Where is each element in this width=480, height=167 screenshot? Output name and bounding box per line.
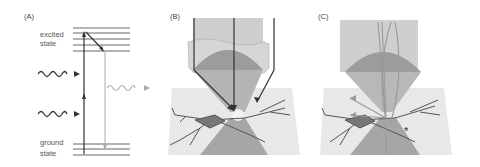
ground-state-label-2: state xyxy=(40,149,56,158)
panel-b-two-photon-focus: (B) xyxy=(168,12,300,155)
panel-a-label: (A) xyxy=(24,12,35,21)
arrowhead-icon xyxy=(144,85,150,91)
arrowhead-icon xyxy=(82,31,86,37)
figure: (A) excited state ground state xyxy=(0,0,480,167)
panel-c-label: (C) xyxy=(318,12,329,21)
ground-levels xyxy=(73,144,130,155)
photon-wave-in-2 xyxy=(38,112,67,117)
photon-wave-in-1 xyxy=(38,72,67,77)
arrowhead-icon xyxy=(74,111,80,117)
excited-state-label-1: excited xyxy=(40,30,64,39)
panel-b-label: (B) xyxy=(170,12,181,21)
panel-a-energy-diagram: (A) excited state ground state xyxy=(24,12,150,158)
ground-state-label-1: ground xyxy=(40,138,63,147)
excited-state-label-2: state xyxy=(40,39,56,48)
arrowhead-icon xyxy=(74,71,80,77)
photon-wave-out xyxy=(107,86,135,91)
scatter-marker-asterisk: * xyxy=(404,125,409,137)
panel-c-scattered-emission: (C) * xyxy=(318,12,452,155)
arrowhead-icon xyxy=(82,93,86,99)
